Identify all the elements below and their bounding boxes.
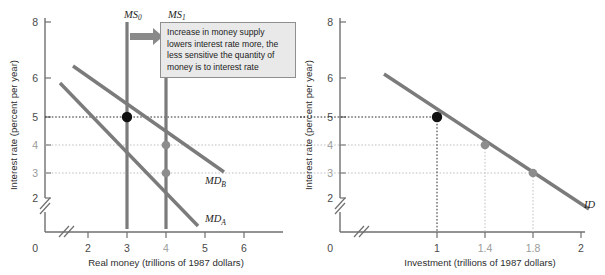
y-ticklabel-4: 4 <box>32 139 38 151</box>
shift-arrow-icon <box>130 28 163 45</box>
investment-point-1 <box>432 112 442 122</box>
y-axis-break-mark <box>335 198 345 209</box>
equilibrium-point-initial <box>122 112 132 122</box>
x-ticklabel-6: 6 <box>241 242 247 254</box>
y-ticklabel-3: 3 <box>32 167 38 179</box>
curve-label-id: ID <box>583 199 595 210</box>
y-axis-title: Interest rate (percent per year) <box>303 60 314 190</box>
x-ticklabel-1-4: 1.4 <box>478 242 493 254</box>
x-ticklabel-4: 4 <box>163 242 169 254</box>
y-ticklabel-2: 2 <box>327 192 333 204</box>
supply-label-ms0: MS0 <box>124 9 142 22</box>
y-axis-break-mark <box>40 198 50 209</box>
investment-point-1-4 <box>481 141 490 150</box>
curve-label-mdb: MDB <box>204 175 226 189</box>
curve-label-mda: MDA <box>204 213 226 227</box>
y-ticklabel-6: 6 <box>327 72 333 84</box>
y-ticklabel-6: 6 <box>32 72 38 84</box>
x-ticklabel-1: 1 <box>434 242 440 254</box>
money-market-chart: 8 6 5 4 3 2 0 2 3 4 5 6 <box>0 0 305 275</box>
x-ticklabel-5: 5 <box>202 242 208 254</box>
x-ticklabel-2: 2 <box>578 242 584 254</box>
x-ticklabel-2: 2 <box>85 242 91 254</box>
equilibrium-point-mda <box>162 169 171 178</box>
y-axis-title: Interest rate (percent per year) <box>8 60 19 190</box>
y-ticklabel-2: 2 <box>32 192 38 204</box>
callout-money-supply: Increase in money supply lowers interest… <box>160 22 296 78</box>
y-ticklabel-0: 0 <box>327 242 333 254</box>
y-ticklabel-8: 8 <box>327 16 333 28</box>
investment-demand-svg: 8 6 5 4 3 2 0 1 1.4 1.8 2 ID Inter <box>300 0 605 275</box>
y-ticklabel-0: 0 <box>32 242 38 254</box>
equilibrium-point-mdb <box>162 141 171 150</box>
y-ticklabel-5: 5 <box>32 111 38 123</box>
x-ticklabel-1-8: 1.8 <box>526 242 541 254</box>
supply-label-ms1: MS1 <box>168 9 186 22</box>
x-ticklabel-3: 3 <box>124 242 130 254</box>
x-axis-title: Real money (trillions of 1987 dollars) <box>88 257 244 268</box>
investment-point-1-8 <box>529 169 538 178</box>
x-axis-title: Investment (trillions of 1987 dollars) <box>404 257 555 268</box>
investment-demand-chart: 8 6 5 4 3 2 0 1 1.4 1.8 2 ID Inter <box>300 0 605 275</box>
y-ticklabel-8: 8 <box>32 16 38 28</box>
